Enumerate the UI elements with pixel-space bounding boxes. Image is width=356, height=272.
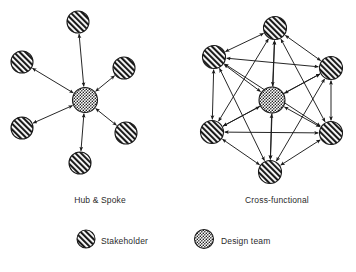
edge-hub-and-spoke-hub-to-stakeholder-top — [79, 34, 84, 86]
hub-and-spoke-stakeholder-lower-left — [11, 117, 33, 139]
edge-cross-functional-stakeholder-upper-left-to-stakeholder-upper-right — [227, 58, 319, 67]
edge-cross-functional-stakeholder-top-to-stakeholder-upper-left — [225, 33, 263, 51]
cross-functional-stakeholder-upper-left — [203, 46, 226, 69]
cross-functional-stakeholder-upper-right — [320, 57, 343, 80]
edge-hub-and-spoke-hub-to-stakeholder-lower-left — [33, 106, 72, 123]
legend-label-stakeholder: Stakeholder — [101, 236, 148, 246]
edge-hub-and-spoke-hub-to-stakeholder-upper-left — [32, 68, 73, 93]
hub-and-spoke-stakeholder-top — [67, 11, 89, 33]
edge-cross-functional-stakeholder-lower-left-to-stakeholder-bottom — [222, 139, 259, 165]
cross-functional-stakeholder-top — [264, 17, 287, 40]
legend-stakeholder-swatch — [77, 230, 95, 248]
cross-functional-stakeholder-bottom — [259, 161, 282, 184]
edge-cross-functional-design-team-to-stakeholder-upper-left — [224, 65, 260, 92]
cross-functional-design-team — [259, 87, 285, 113]
network-diagram-figure: Hub & Spoke Cross-functional Stakeholder… — [0, 0, 356, 272]
hub-and-spoke-stakeholder-upper-left — [11, 51, 33, 73]
hub-and-spoke-stakeholder-upper-right — [113, 57, 135, 79]
edge-cross-functional-stakeholder-lower-left-to-stakeholder-lower-right — [225, 132, 319, 133]
legend-design-team-swatch — [195, 230, 214, 249]
diagram-canvas — [0, 0, 356, 272]
hub-and-spoke-design-team — [73, 88, 98, 113]
cross-functional-stakeholder-lower-left — [201, 121, 224, 144]
legend-label-design-team: Design team — [221, 236, 270, 246]
hub-and-spoke-stakeholder-lower-right — [115, 122, 137, 144]
edge-hub-and-spoke-hub-to-stakeholder-lower-right — [96, 109, 117, 126]
edge-cross-functional-stakeholder-upper-right-to-stakeholder-bottom — [276, 79, 324, 161]
edge-cross-functional-stakeholder-upper-left-to-stakeholder-lower-left — [212, 70, 213, 120]
panel-caption-cross-functional: Cross-functional — [245, 195, 309, 205]
edge-hub-and-spoke-hub-to-stakeholder-bottom — [81, 114, 84, 151]
edge-cross-functional-stakeholder-top-to-stakeholder-lower-right — [281, 39, 325, 122]
panel-caption-hub-and-spoke: Hub & Spoke — [74, 195, 126, 205]
edge-hub-and-spoke-hub-to-stakeholder-upper-right — [96, 76, 115, 92]
cross-functional-stakeholder-lower-right — [320, 122, 343, 145]
hub-and-spoke-stakeholder-bottom — [69, 152, 91, 174]
